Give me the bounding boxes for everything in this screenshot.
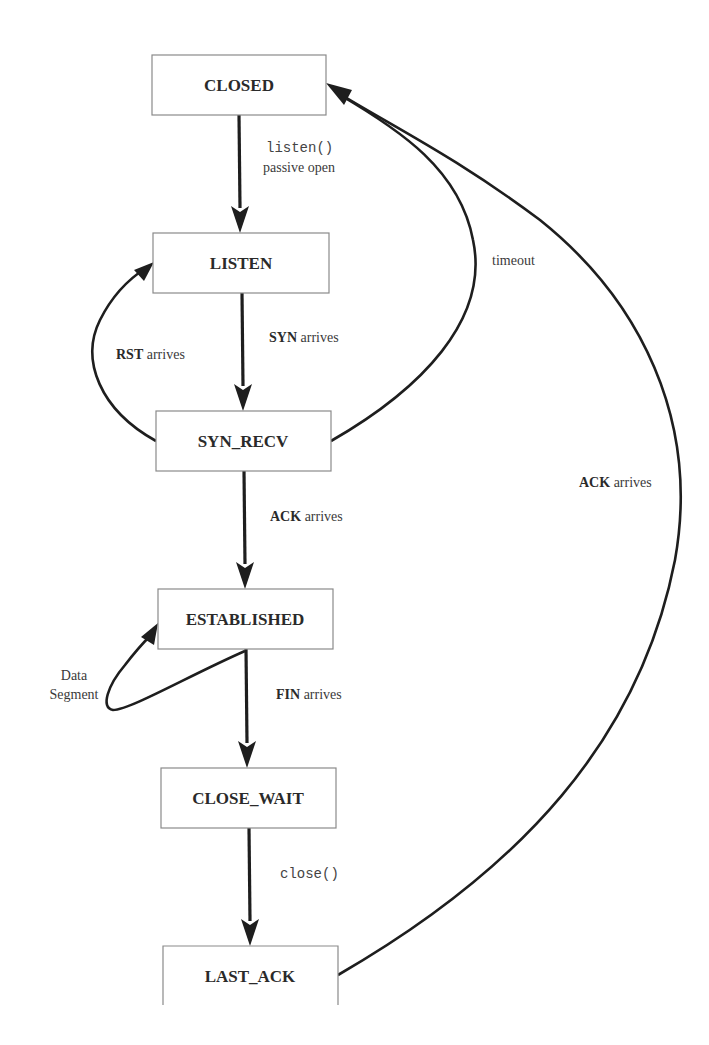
- tcp-state-diagram: CLOSED LISTEN SYN_RECV ESTABLISHED CLOSE…: [0, 0, 709, 1045]
- label-data: Data: [61, 668, 88, 683]
- edge-syn-recv-to-established: [236, 471, 254, 589]
- state-syn-recv: SYN_RECV: [156, 411, 331, 471]
- state-label: LAST_ACK: [205, 967, 296, 986]
- label-segment: Segment: [50, 687, 99, 702]
- arrowhead-icon: [326, 83, 352, 105]
- label-rst-arrives: RST arrives: [116, 347, 185, 362]
- state-label: CLOSED: [204, 76, 274, 95]
- label-timeout: timeout: [492, 253, 535, 268]
- arrowhead-icon: [234, 384, 252, 411]
- arrowhead-icon: [231, 206, 249, 233]
- state-label: SYN_RECV: [198, 432, 289, 451]
- arrowhead-icon: [238, 741, 256, 768]
- label-close-call: close(): [280, 866, 339, 882]
- state-label: LISTEN: [210, 254, 273, 273]
- edge-last-ack-to-closed: [338, 97, 681, 975]
- edge-established-to-close-wait: [238, 649, 256, 768]
- label-listen-call: listen(): [266, 140, 333, 156]
- edge-closed-to-listen: [231, 115, 249, 233]
- state-closed: CLOSED: [152, 55, 326, 115]
- arrowhead-icon: [134, 262, 154, 281]
- state-close-wait: CLOSE_WAIT: [161, 768, 336, 828]
- state-listen: LISTEN: [153, 233, 329, 293]
- arrowhead-icon: [236, 562, 254, 589]
- label-ack-arrives: ACK arrives: [270, 509, 343, 524]
- label-fin-arrives: FIN arrives: [276, 687, 342, 702]
- label-ack-arrives-last: ACK arrives: [579, 475, 652, 490]
- state-last-ack: LAST_ACK: [163, 946, 338, 1005]
- edge-close-wait-to-last-ack: [241, 828, 259, 946]
- arrowhead-icon: [241, 919, 259, 946]
- state-label: ESTABLISHED: [186, 610, 305, 629]
- state-established: ESTABLISHED: [158, 589, 333, 649]
- state-label: CLOSE_WAIT: [192, 789, 304, 808]
- edge-listen-to-syn-recv: [234, 293, 252, 411]
- edge-syn-recv-to-closed: [331, 95, 476, 441]
- label-passive-open: passive open: [263, 160, 335, 175]
- label-syn-arrives: SYN arrives: [269, 330, 339, 345]
